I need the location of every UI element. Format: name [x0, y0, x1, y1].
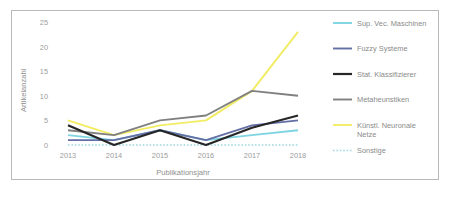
- chart-figure: 25 20 15 10 5 0 Artikelanzahl 2013 2014 …: [0, 0, 454, 197]
- series-layer: [68, 32, 298, 145]
- series-line-4: [68, 32, 298, 135]
- y-tick-label: 20: [40, 43, 48, 52]
- legend-label-2: Stat. Klassifizierer: [357, 70, 417, 79]
- y-tick-label: 10: [40, 92, 48, 101]
- x-axis-title: Publikationsjahr: [156, 168, 210, 177]
- y-tick-label: 5: [44, 116, 48, 125]
- legend-label-3: Metaheunstiken: [357, 95, 409, 104]
- chart-legend: Sup. Vec. MaschinenFuzzy SystemeStat. Kl…: [333, 19, 426, 156]
- series-line-3: [68, 91, 298, 135]
- x-tick-label: 2013: [60, 151, 76, 160]
- y-axis-title: Artikelanzahl: [19, 68, 28, 112]
- y-tick-label: 15: [40, 67, 48, 76]
- series-line-2: [68, 115, 298, 145]
- x-tick-label: 2017: [244, 151, 260, 160]
- y-axis-ticks: 25 20 15 10 5 0: [40, 18, 48, 150]
- x-tick-label: 2014: [106, 151, 122, 160]
- x-tick-label: 2015: [152, 151, 168, 160]
- legend-label-4-line2: Netze: [357, 130, 376, 139]
- y-tick-label: 0: [44, 141, 48, 150]
- x-tick-label: 2016: [198, 151, 214, 160]
- line-chart: 25 20 15 10 5 0 Artikelanzahl 2013 2014 …: [0, 0, 454, 197]
- legend-label-0: Sup. Vec. Maschinen: [357, 19, 426, 28]
- x-axis-ticks: 2013 2014 2015 2016 2017 2018: [60, 151, 306, 160]
- x-tick-label: 2018: [290, 151, 306, 160]
- legend-label-4: Künstl. Neuronale: [357, 121, 416, 130]
- legend-label-1: Fuzzy Systeme: [357, 44, 408, 53]
- legend-label-5: Sonstige: [357, 146, 386, 155]
- y-tick-label: 25: [40, 18, 48, 27]
